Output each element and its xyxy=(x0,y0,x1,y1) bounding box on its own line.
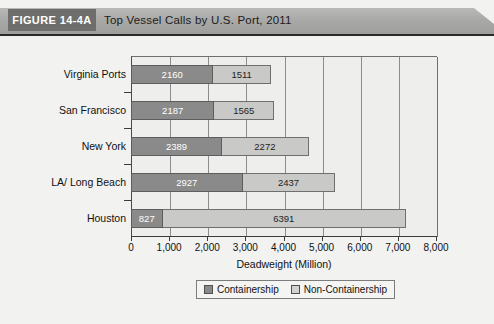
bar-row[interactable]: 21601511 xyxy=(131,65,271,84)
x-axis-tick xyxy=(131,236,132,241)
legend-label-non-containership: Non-Containership xyxy=(304,284,387,295)
x-axis-tick xyxy=(284,236,285,241)
bar-segment-non-containership[interactable]: 2272 xyxy=(222,137,309,156)
bar-segment-non-containership[interactable]: 2437 xyxy=(243,173,336,192)
bar-row[interactable]: 29272437 xyxy=(131,173,335,192)
bar-segment-non-containership[interactable]: 1565 xyxy=(214,101,274,120)
bar-segment-containership[interactable]: 827 xyxy=(131,209,163,228)
y-axis-tick xyxy=(124,164,131,165)
category-label: Houston xyxy=(6,212,126,224)
bar-segment-containership[interactable]: 2389 xyxy=(131,137,222,156)
x-axis-tick xyxy=(169,236,170,241)
chart-legend: Containership Non-Containership xyxy=(196,280,395,299)
x-axis-tick xyxy=(322,236,323,241)
x-axis-tick-label: 8,000 xyxy=(413,242,459,253)
y-axis-tick xyxy=(124,92,131,93)
legend-swatch-non-containership xyxy=(291,285,300,294)
category-label: San Francisco xyxy=(6,104,126,116)
bar-segment-non-containership[interactable]: 6391 xyxy=(163,209,407,228)
category-label: New York xyxy=(6,140,126,152)
category-label: Virginia Ports xyxy=(6,68,126,80)
x-axis-tick xyxy=(398,236,399,241)
bar-segment-non-containership[interactable]: 1511 xyxy=(213,65,271,84)
figure-title: Top Vessel Calls by U.S. Port, 2011 xyxy=(104,9,292,31)
x-axis-tick xyxy=(207,236,208,241)
bar-segment-containership[interactable]: 2927 xyxy=(131,173,243,192)
bar-segment-containership[interactable]: 2160 xyxy=(131,65,213,84)
legend-item-non-containership[interactable]: Non-Containership xyxy=(291,284,387,295)
x-axis-title: Deadweight (Million) xyxy=(131,258,437,270)
bar-row[interactable]: 8276391 xyxy=(131,209,406,228)
legend-swatch-containership xyxy=(204,285,213,294)
figure-number-badge: FIGURE 14-4A xyxy=(8,9,96,31)
bar-row[interactable]: 21871565 xyxy=(131,101,274,120)
bar-segment-containership[interactable]: 2187 xyxy=(131,101,214,120)
bar-row[interactable]: 23892272 xyxy=(131,137,309,156)
category-label: LA/ Long Beach xyxy=(6,176,126,188)
x-axis-tick xyxy=(360,236,361,241)
plot-right-border xyxy=(437,57,438,237)
x-axis-tick xyxy=(436,236,437,241)
legend-item-containership[interactable]: Containership xyxy=(204,284,279,295)
y-axis-tick xyxy=(124,128,131,129)
legend-label-containership: Containership xyxy=(217,284,279,295)
y-axis-tick xyxy=(124,200,131,201)
x-axis-tick xyxy=(245,236,246,241)
figure-container: FIGURE 14-4A Top Vessel Calls by U.S. Po… xyxy=(0,0,494,324)
chart-area: 216015112187156523892272292724378276391 … xyxy=(0,40,494,324)
